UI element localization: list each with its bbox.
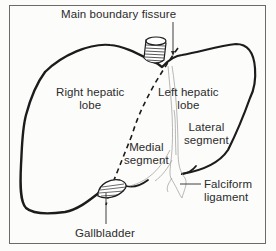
label-medial-segment: Medial segment bbox=[124, 141, 169, 167]
label-lateral-segment: Lateral segment bbox=[184, 121, 229, 147]
fissure-leader-arrow bbox=[171, 22, 175, 56]
label-main-boundary-fissure: Main boundary fissure bbox=[61, 8, 176, 21]
label-left-hepatic-lobe: Left hepatic lobe bbox=[158, 86, 219, 112]
label-falciform-ligament: Falciform ligament bbox=[204, 178, 252, 204]
gallbladder-shape bbox=[98, 180, 126, 198]
liver-illustration bbox=[0, 0, 276, 251]
label-right-hepatic-lobe: Right hepatic lobe bbox=[56, 86, 124, 112]
liver-outline-lateral-inferior bbox=[182, 166, 196, 174]
liver-diagram: Main boundary fissure Right hepatic lobe… bbox=[0, 0, 276, 251]
inferior-vena-cava bbox=[144, 37, 166, 63]
label-gallbladder: Gallbladder bbox=[75, 227, 135, 240]
